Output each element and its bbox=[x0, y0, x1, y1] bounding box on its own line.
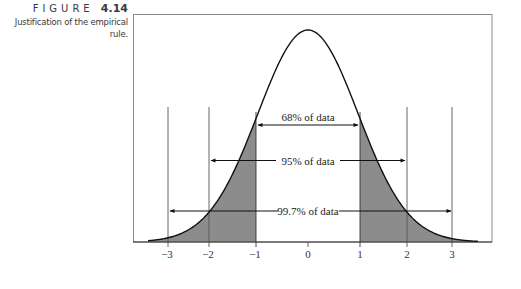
tick-label-minus-3: −3 bbox=[161, 248, 173, 260]
left-tail-shading bbox=[148, 119, 256, 242]
label-68: 68% of data bbox=[281, 111, 334, 123]
tick-label-3: 3 bbox=[449, 248, 455, 260]
tick-label-1: 1 bbox=[357, 248, 363, 260]
tick-label-2: 2 bbox=[404, 248, 410, 260]
tick-label-minus-2: −2 bbox=[202, 248, 214, 260]
tick-label-0: 0 bbox=[305, 248, 311, 260]
label-997: 99.7% of data bbox=[277, 205, 339, 217]
label-95: 95% of data bbox=[281, 155, 334, 167]
tick-label-minus-1: −1 bbox=[249, 248, 261, 260]
empirical-rule-chart: 68% of data 95% of data 99.7% of data −3… bbox=[0, 0, 521, 289]
